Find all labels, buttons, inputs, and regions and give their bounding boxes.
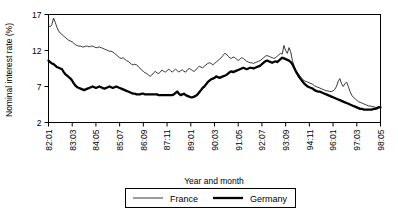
x-axis-title: Year and month [184,176,244,186]
y-axis-title: Nominal interest rate (%) [4,23,14,117]
x-tick-label: 89:01 [186,129,196,151]
series-line-france [49,18,381,107]
series-line-germany [49,58,381,110]
x-tick-label: 93:09 [281,129,291,151]
x-tick-label: 83:03 [68,129,78,151]
x-tick-label: 84:05 [91,129,101,151]
data-series-group [49,18,381,109]
chart-legend: France Germany [126,189,296,208]
x-tick-label: 87:11 [162,129,172,150]
plot-frame [49,15,381,123]
x-tick-label: 98:05 [376,129,386,151]
y-tick-label: 12 [32,46,42,56]
x-tick-label: 94:11 [305,129,315,150]
x-tick-label: 97:03 [352,129,362,151]
y-tick-label: 7 [37,82,42,92]
x-tick-label: 96:01 [328,129,338,151]
nominal-interest-rate-line-chart: Nominal interest rate (%) 271217 82:0183… [0,0,398,216]
x-tick-label: 86:09 [139,129,149,151]
x-tick-label: 85:07 [115,129,125,151]
legend-label-germany: Germany [250,194,288,204]
chart-figure: Nominal interest rate (%) 271217 82:0183… [0,0,398,216]
x-tick-label: 92:07 [257,129,267,151]
x-tick-label: 90:03 [210,129,220,151]
x-tick-label: 91:05 [234,129,244,151]
legend-label-france: France [170,194,198,204]
y-axis-ticks: 271217 [32,10,48,128]
x-axis-ticks: 82:0183:0384:0585:0786:0987:1189:0190:03… [44,123,386,151]
x-tick-label: 82:01 [44,129,54,151]
y-tick-label: 2 [37,118,42,128]
y-tick-label: 17 [32,10,42,20]
